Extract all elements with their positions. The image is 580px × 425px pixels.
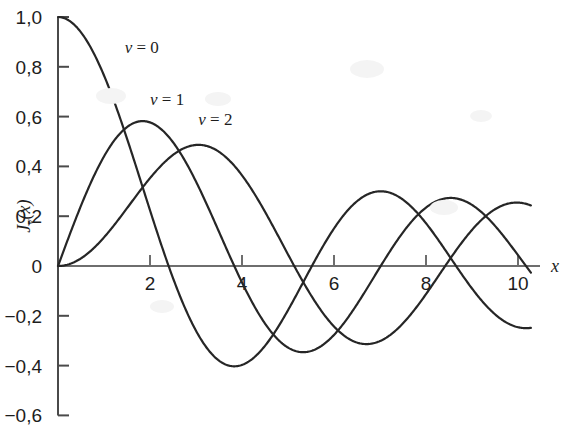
bessel-function-figure: 1,00,80,60,40,20−0,2−0,4−0,6 246810 ν = … <box>0 0 580 425</box>
y-tick-label: 0,8 <box>16 57 42 78</box>
y-tick-label: −0,6 <box>4 405 42 425</box>
curve-label-1: ν = 1 <box>150 90 184 109</box>
x-axis <box>58 255 540 266</box>
svg-text:ν = 0: ν = 0 <box>125 38 159 57</box>
y-tick-label: 0,4 <box>16 156 43 177</box>
x-tick-label: 8 <box>421 273 432 294</box>
x-tick-label: 2 <box>145 273 156 294</box>
x-tick-label: 10 <box>507 273 528 294</box>
curve-2 <box>58 145 531 344</box>
x-axis-tick-labels: 246810 <box>145 273 529 294</box>
y-axis <box>58 17 69 415</box>
svg-text:Jν(x): Jν(x) <box>14 200 37 233</box>
curve-label-2: ν = 2 <box>198 110 232 129</box>
y-tick-label: −0,4 <box>4 356 42 377</box>
y-tick-label: 1,0 <box>16 7 42 28</box>
y-axis-title: Jν(x) <box>14 200 37 233</box>
y-tick-label: −0,2 <box>4 306 42 327</box>
curve-annotations: ν = 0ν = 1ν = 2 <box>125 38 233 129</box>
curve-label-0: ν = 0 <box>125 38 159 57</box>
curve-1 <box>58 121 531 352</box>
svg-text:ν = 1: ν = 1 <box>150 90 184 109</box>
x-tick-label: 6 <box>329 273 340 294</box>
curve-0 <box>58 17 531 366</box>
svg-text:ν = 2: ν = 2 <box>198 110 232 129</box>
y-tick-label: 0,6 <box>16 107 42 128</box>
chart-canvas: 1,00,80,60,40,20−0,2−0,4−0,6 246810 ν = … <box>0 0 580 425</box>
x-axis-title: x <box>550 256 559 276</box>
data-curves <box>58 17 531 366</box>
y-tick-label: 0 <box>31 256 42 277</box>
